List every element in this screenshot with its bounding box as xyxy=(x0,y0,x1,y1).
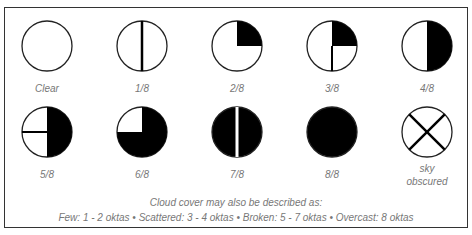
six-eighths-cover-icon xyxy=(115,105,169,159)
symbol-label: 3/8 xyxy=(287,82,377,95)
symbol-sky-obscured: sky obscured xyxy=(382,105,472,188)
symbol-1-8: 1/8 xyxy=(97,19,187,95)
symbol-5-8: 5/8 xyxy=(2,105,92,181)
overcast-icon xyxy=(305,105,359,159)
symbol-label: 8/8 xyxy=(287,168,377,181)
symbol-6-8: 6/8 xyxy=(97,105,187,181)
two-eighths-cover-icon xyxy=(210,19,264,73)
symbol-label: 4/8 xyxy=(382,82,472,95)
seven-eighths-cover-icon xyxy=(210,105,264,159)
symbol-2-8: 2/8 xyxy=(192,19,282,95)
symbol-8-8: 8/8 xyxy=(287,105,377,181)
sky-obscured-icon xyxy=(400,105,454,159)
symbol-label: 6/8 xyxy=(97,168,187,181)
symbol-4-8: 4/8 xyxy=(382,19,472,95)
four-eighths-cover-icon xyxy=(400,19,454,73)
five-eighths-cover-icon xyxy=(20,105,74,159)
symbol-label: sky obscured xyxy=(382,162,472,188)
one-eighth-cover-icon xyxy=(115,19,169,73)
symbol-label: 7/8 xyxy=(192,168,282,181)
clear-sky-icon xyxy=(20,19,74,73)
note-line2: Few: 1 - 2 oktas • Scattered: 3 - 4 okta… xyxy=(4,212,468,223)
symbol-3-8: 3/8 xyxy=(287,19,377,95)
symbol-clear: Clear xyxy=(2,19,92,95)
symbol-label-line1: sky xyxy=(382,162,472,175)
symbol-label-line2: obscured xyxy=(382,175,472,188)
symbol-label: 5/8 xyxy=(2,168,92,181)
three-eighths-cover-icon xyxy=(305,19,359,73)
symbol-label: 2/8 xyxy=(192,82,282,95)
symbol-7-8: 7/8 xyxy=(192,105,282,181)
note-line1: Cloud cover may also be described as: xyxy=(4,197,468,208)
symbol-label: Clear xyxy=(2,82,92,95)
symbol-label: 1/8 xyxy=(97,82,187,95)
